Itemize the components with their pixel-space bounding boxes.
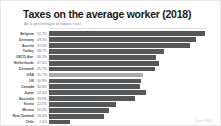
bar-track (49, 67, 212, 72)
bar-category-label: Germany (8, 38, 34, 42)
bar-value-label: 31.7% (34, 73, 49, 77)
bar-row: Chile7.0% (8, 119, 212, 125)
bar-track (49, 114, 212, 119)
bar-value-label: 38.7% (34, 49, 49, 53)
bar-track (49, 120, 212, 125)
bar-value-label: 22.6% (34, 102, 49, 106)
bar-row: Canada30.8% (8, 84, 212, 90)
bar-category-label: Netherlands (8, 61, 34, 65)
bar-category-label: Turkey (8, 49, 34, 53)
bar-row: Turkey38.7% (8, 49, 212, 55)
bar-category-label: Denmark (8, 67, 34, 71)
bar-track (49, 43, 212, 48)
chart-subtitle: As a percentage of labour cost (24, 21, 212, 27)
bar-category-label: Korea (8, 102, 34, 106)
bar (49, 61, 159, 66)
bar-value-label: 36.1% (34, 55, 49, 59)
bar (49, 79, 141, 84)
bar-value-label: 32.6% (34, 91, 49, 95)
bar (49, 108, 109, 113)
bar-value-label: 30.8% (34, 85, 49, 89)
bar (49, 43, 190, 48)
bar-row: Netherlands37.0% (8, 60, 212, 66)
bar-row: Denmark35.7% (8, 66, 212, 72)
bar-category-label: Austria (8, 44, 34, 48)
bar-category-label: UK (8, 79, 34, 83)
source-credit: Source: OECD (195, 120, 213, 123)
bar (49, 114, 104, 119)
bar-category-label: OECD Ave. (8, 55, 34, 59)
bar-category-label: Australia (8, 97, 34, 101)
bar-track (49, 31, 212, 36)
bar-track (49, 55, 212, 60)
bar-value-label: 20.4% (34, 108, 49, 112)
bar-track (49, 84, 212, 89)
bar-value-label: 30.9% (34, 79, 49, 83)
bar-highlighted (49, 73, 143, 78)
bar (49, 31, 205, 36)
bar-value-label: 7.0% (34, 120, 49, 124)
bar-row: OECD Ave.36.1% (8, 55, 212, 61)
bar-row: Korea22.6% (8, 102, 212, 108)
bar-value-label: 49.5% (34, 38, 49, 42)
bar-track (49, 79, 212, 84)
bar-row: USA31.7% (8, 72, 212, 78)
bar-value-label: 18.4% (34, 114, 49, 118)
bar-category-label: Canada (8, 85, 34, 89)
bar-track (49, 73, 212, 78)
bar-category-label: Mexico (8, 108, 34, 112)
bar-value-label: 52.7% (34, 32, 49, 36)
bar-chart-plot: Belgium52.7%Germany49.5%Austria47.6%Turk… (8, 31, 212, 125)
bar-row: UK30.9% (8, 78, 212, 84)
bar (49, 120, 70, 125)
bar (49, 37, 196, 42)
bar-row: Austria47.6% (8, 43, 212, 49)
title-divider (50, 28, 206, 29)
bar-track (49, 108, 212, 113)
bar-category-label: Chile (8, 120, 34, 124)
bar-value-label: 35.7% (34, 67, 49, 71)
bar-category-label: New Zealand (8, 114, 34, 118)
bar-row: Belgium52.7% (8, 31, 212, 37)
bar-row: New Zealand18.4% (8, 113, 212, 119)
bar (49, 96, 135, 101)
bar-category-label: Belgium (8, 32, 34, 36)
bar-row: Mexico20.4% (8, 108, 212, 114)
bar (49, 49, 164, 54)
bar-row: Japan32.6% (8, 90, 212, 96)
bar-category-label: USA (8, 73, 34, 77)
bar-track (49, 90, 212, 95)
bar (49, 102, 116, 107)
chart-card: Taxes on the average worker (2018) As a … (0, 0, 221, 126)
bar-track (49, 37, 212, 42)
bar-row: Australia28.9% (8, 96, 212, 102)
bar (49, 84, 140, 89)
bar-track (49, 102, 212, 107)
chart-title: Taxes on the average worker (2018) (23, 9, 212, 20)
bar-value-label: 47.6% (34, 44, 49, 48)
bar (49, 67, 155, 72)
bar-track (49, 96, 212, 101)
bar-value-label: 28.9% (34, 97, 49, 101)
bar (49, 55, 156, 60)
bar-track (49, 49, 212, 54)
bar-category-label: Japan (8, 91, 34, 95)
bar-value-label: 37.0% (34, 61, 49, 65)
bar-row: Germany49.5% (8, 37, 212, 43)
bar (49, 90, 146, 95)
bar-track (49, 61, 212, 66)
